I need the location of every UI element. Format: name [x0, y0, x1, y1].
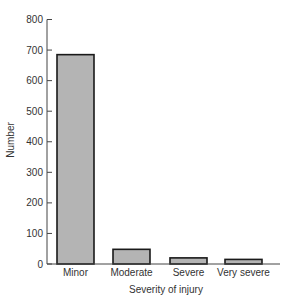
y-tick-label: 600 [26, 75, 43, 86]
bar-chart: 0100200300400500600700800 MinorModerateS… [0, 0, 285, 305]
x-tick-label: Very severe [217, 267, 270, 278]
y-axis-title: Number [5, 122, 16, 158]
x-tick-label: Severe [173, 267, 205, 278]
y-tick-label: 700 [26, 45, 43, 56]
bar-moderate [113, 249, 150, 264]
x-tick-label: Moderate [110, 267, 153, 278]
y-tick-label: 200 [26, 197, 43, 208]
bar-very-severe [225, 259, 262, 264]
y-tick-label: 800 [26, 14, 43, 25]
y-axis: 0100200300400500600700800 [26, 14, 52, 270]
bar-minor [57, 55, 94, 264]
bar-severe [170, 258, 207, 264]
y-tick-label: 0 [37, 259, 43, 270]
y-tick-label: 300 [26, 167, 43, 178]
bars [57, 55, 262, 264]
y-tick-label: 500 [26, 106, 43, 117]
y-tick-label: 100 [26, 228, 43, 239]
x-axis-title: Severity of injury [129, 284, 203, 295]
y-tick-label: 400 [26, 136, 43, 147]
x-axis: MinorModerateSevereVery severe [47, 264, 280, 278]
x-tick-label: Minor [63, 267, 89, 278]
